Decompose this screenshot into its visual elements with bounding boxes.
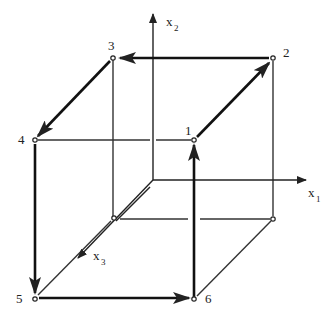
vertex-label-4: 4 [18,132,25,147]
vertex-back-bottom-left [112,216,116,220]
vertex-6 [192,297,196,301]
vertex-5 [33,297,37,301]
axis-label-x3-sub: 3 [101,257,106,267]
vertex-back-bottom-right [271,217,275,221]
arrow-3-to-4 [38,61,110,136]
vertex-4 [33,138,37,142]
axis-label-x2: x [166,14,173,29]
vertex-label-5: 5 [16,291,23,306]
axis-label-x1-sub: 1 [316,194,321,204]
edge-bottom-right-diagonal [197,221,271,296]
vertex-1 [192,138,196,142]
vertex-label-6: 6 [205,291,212,306]
vertex-3 [111,56,115,60]
vertex-label-2: 2 [283,45,290,60]
axis-label-x1: x [308,185,315,200]
arrow-1-to-2 [197,63,269,137]
axis-label-x2-sub: 2 [174,23,179,33]
axis-label-x3: x [93,248,100,263]
cube-diagram: 1 2 3 4 5 6 x 2 x 1 x 3 [0,0,335,325]
x3-axis-double [116,187,150,221]
vertex-label-3: 3 [108,38,115,53]
vertex-label-1: 1 [185,123,192,138]
vertex-2 [271,56,275,60]
